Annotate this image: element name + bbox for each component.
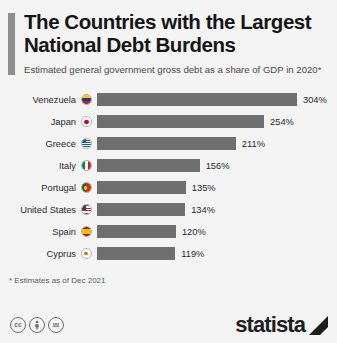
country-label: Cyprus bbox=[8, 249, 76, 259]
bar-value-label: 156% bbox=[206, 161, 230, 171]
bar-container: 211% bbox=[97, 137, 333, 150]
footer: cc statista bbox=[0, 314, 337, 336]
bar-value-label: 135% bbox=[192, 183, 216, 193]
country-label: Spain bbox=[8, 227, 76, 237]
country-label: United States bbox=[8, 205, 76, 215]
bar-container: 304% bbox=[97, 93, 333, 106]
chart-row: Japan254% bbox=[8, 111, 333, 133]
bar bbox=[97, 203, 185, 216]
cc-by-icon[interactable] bbox=[29, 317, 45, 333]
bar-value-label: 211% bbox=[242, 139, 265, 149]
bar-container: 120% bbox=[97, 225, 333, 238]
chart-row: Cyprus119% bbox=[8, 243, 333, 265]
bar-container: 156% bbox=[97, 159, 333, 172]
bar bbox=[97, 181, 186, 194]
chart-row: Venezuela304% bbox=[8, 89, 333, 111]
bar-chart: Venezuela304%Japan254%Greece211%Italy156… bbox=[0, 89, 337, 265]
footnote: * Estimates as of Dec 2021 bbox=[0, 276, 337, 285]
cc-nd-icon[interactable] bbox=[48, 317, 64, 333]
flag-icon bbox=[81, 204, 92, 215]
page-title: The Countries with the Largest National … bbox=[24, 11, 329, 57]
bar bbox=[97, 159, 200, 172]
bar bbox=[97, 115, 264, 128]
bar-value-label: 134% bbox=[191, 205, 215, 215]
title-accent-bar bbox=[8, 13, 15, 75]
flag-icon bbox=[81, 248, 92, 259]
flag-icon bbox=[81, 94, 92, 105]
bar-value-label: 304% bbox=[303, 95, 327, 105]
infographic-card: The Countries with the Largest National … bbox=[0, 0, 337, 343]
statista-wordmark: statista bbox=[235, 314, 305, 336]
flag-icon bbox=[81, 160, 92, 171]
bar-container: 254% bbox=[97, 115, 333, 128]
flag-icon bbox=[81, 226, 92, 237]
bar bbox=[97, 225, 176, 238]
country-label: Japan bbox=[8, 117, 76, 127]
bar-value-label: 119% bbox=[181, 249, 204, 259]
chart-row: Greece211% bbox=[8, 133, 333, 155]
country-label: Portugal bbox=[8, 183, 76, 193]
creative-commons-badges: cc bbox=[10, 317, 64, 333]
bar-value-label: 120% bbox=[182, 227, 206, 237]
bar-container: 119% bbox=[97, 247, 333, 260]
bar-container: 134% bbox=[97, 203, 333, 216]
chart-row: United States134% bbox=[8, 199, 333, 221]
cc-icon[interactable]: cc bbox=[10, 317, 26, 333]
chart-row: Spain120% bbox=[8, 221, 333, 243]
chart-row: Italy156% bbox=[8, 155, 333, 177]
bar bbox=[97, 247, 175, 260]
flag-icon bbox=[81, 138, 92, 149]
header: The Countries with the Largest National … bbox=[0, 0, 337, 77]
country-label: Venezuela bbox=[8, 95, 76, 105]
statista-arrow-icon bbox=[309, 316, 328, 335]
country-label: Greece bbox=[8, 139, 76, 149]
flag-icon bbox=[81, 182, 92, 193]
statista-logo: statista bbox=[235, 314, 328, 336]
bar-value-label: 254% bbox=[270, 117, 294, 127]
flag-icon bbox=[81, 116, 92, 127]
svg-text:cc: cc bbox=[14, 321, 22, 328]
bar-container: 135% bbox=[97, 181, 333, 194]
chart-row: Portugal135% bbox=[8, 177, 333, 199]
bar bbox=[97, 93, 297, 106]
bar bbox=[97, 137, 236, 150]
header-text: The Countries with the Largest National … bbox=[24, 11, 329, 77]
country-label: Italy bbox=[8, 161, 76, 171]
page-subtitle: Estimated general government gross debt … bbox=[24, 64, 329, 77]
